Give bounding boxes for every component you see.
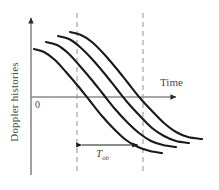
origin-tick-label: 0	[35, 99, 40, 110]
plot-canvas	[0, 0, 219, 190]
interval-subscript: ob	[102, 154, 109, 162]
x-axis-label: Time	[160, 76, 183, 88]
observation-interval-label: Tob	[96, 147, 109, 162]
doppler-curves-group	[34, 32, 202, 153]
y-axis-label: Doppler histories	[8, 42, 20, 162]
doppler-histories-figure: Doppler histories Time 0 Tob	[0, 0, 219, 190]
